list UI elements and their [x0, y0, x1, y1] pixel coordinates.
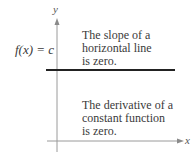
annotation-slope-line3: is zero.	[82, 55, 152, 68]
function-label: f(x) = c	[15, 42, 54, 58]
annotation-derivative: The derivative of a constant function is…	[82, 99, 173, 138]
annotation-slope: The slope of a horizontal line is zero.	[82, 29, 152, 68]
annotation-derivative-line3: is zero.	[82, 125, 173, 138]
y-axis-arrow-icon	[55, 18, 60, 25]
y-axis-label: y	[53, 3, 58, 15]
x-axis-label: x	[185, 134, 190, 146]
x-axis-arrow-icon	[177, 139, 184, 144]
